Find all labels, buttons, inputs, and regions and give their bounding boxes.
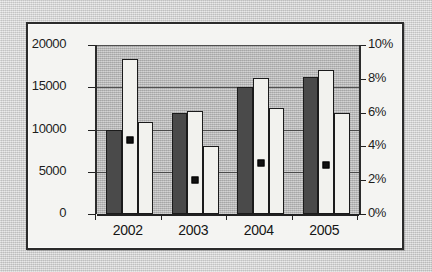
y-axis-tick-label: 15000 — [2, 78, 66, 93]
y-axis-tick-mark — [88, 130, 95, 131]
y2-axis-tick-label: 4% — [368, 137, 428, 152]
chart-card: 05000100001500020000 0%2%4%6%8%10% 20022… — [26, 22, 404, 250]
gridline — [97, 45, 359, 46]
y2-axis-tick-label: 6% — [368, 104, 428, 119]
y2-axis-tick-label: 0% — [368, 205, 428, 220]
y-axis-tick-mark — [88, 214, 95, 215]
y-axis-tick-label: 0 — [2, 205, 66, 220]
bar-series-1-2005 — [303, 77, 319, 214]
bar-series-3-2003 — [203, 146, 219, 214]
y-axis-tick-label: 10000 — [2, 121, 66, 136]
x-axis-tick-label-2005: 2005 — [309, 222, 339, 238]
y2-axis-tick-label: 2% — [368, 171, 428, 186]
y-axis-tick-mark — [88, 172, 95, 173]
bar-series-2-2005 — [318, 70, 334, 214]
screenshot-root: 05000100001500020000 0%2%4%6%8%10% 20022… — [0, 0, 432, 272]
y2-axis-tick-label: 8% — [368, 70, 428, 85]
y2-axis-tick-label: 10% — [368, 36, 428, 51]
bar-series-1-2002 — [106, 130, 122, 215]
plot-area — [95, 45, 361, 214]
y2-axis-tick-mark — [359, 214, 366, 215]
y-axis-tick-label: 20000 — [2, 36, 66, 51]
x-axis-tick-label-2003: 2003 — [178, 222, 208, 238]
x-axis-tick-label-2002: 2002 — [113, 222, 143, 238]
bar-series-3-2002 — [138, 122, 154, 214]
x-axis-tick-label-2004: 2004 — [244, 222, 274, 238]
bar-series-2-2003 — [187, 111, 203, 214]
data-marker-2005 — [323, 162, 330, 169]
y-axis-tick-mark — [88, 45, 95, 46]
data-marker-2004 — [257, 160, 264, 167]
y-axis-tick-label: 5000 — [2, 163, 66, 178]
bar-series-3-2004 — [269, 108, 285, 214]
y-axis-tick-mark — [88, 87, 95, 88]
bar-series-3-2005 — [334, 113, 350, 214]
x-axis-tick-mark — [95, 214, 96, 220]
data-marker-2003 — [192, 177, 199, 184]
data-marker-2002 — [126, 136, 133, 143]
bar-series-2-2004 — [253, 78, 269, 214]
bar-series-1-2004 — [237, 87, 253, 214]
axis-baseline — [97, 214, 359, 216]
bar-series-1-2003 — [172, 113, 188, 214]
